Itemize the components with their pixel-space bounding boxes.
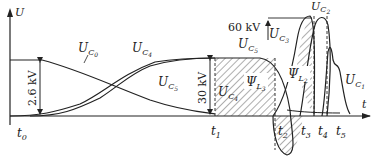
- uc0-curve: [10, 60, 215, 114]
- label-uc5-top: UC5: [238, 37, 258, 54]
- label-psi-l2: ΨL2: [286, 66, 310, 84]
- svg-text:UC5: UC5: [238, 37, 258, 54]
- t0-label: t0: [17, 126, 27, 142]
- svg-text:UC4: UC4: [132, 41, 152, 58]
- y-axis-label: U: [15, 6, 25, 19]
- svg-text:UC1: UC1: [345, 73, 365, 90]
- x-axis: [10, 113, 371, 119]
- svg-text:UC3: UC3: [269, 27, 289, 44]
- svg-text:UC2: UC2: [311, 0, 330, 15]
- t3-label: t3: [301, 124, 311, 140]
- t1-label: t1: [211, 124, 221, 140]
- label-uc1: UC1: [345, 73, 365, 90]
- waveform-diagram: U t 2.6 kV 30 kV 60 kV UC0 UC4 UC5: [0, 0, 373, 160]
- t4-label: t4: [318, 124, 328, 140]
- t5-label: t5: [336, 124, 346, 140]
- voltage-label-60kv: 60 kV: [228, 21, 261, 34]
- svg-text:UC5: UC5: [158, 75, 178, 92]
- voltage-label-2-6kv: 2.6 kV: [26, 69, 39, 106]
- y-axis: [7, 8, 13, 125]
- uc5-curve: [30, 58, 215, 116]
- label-uc4-top: UC4: [132, 41, 152, 58]
- voltage-label-30kv: 30 kV: [196, 71, 209, 104]
- label-uc5-mid: UC5: [158, 75, 178, 92]
- x-axis-label: t: [362, 98, 367, 111]
- label-uc3: UC3: [269, 27, 289, 44]
- label-uc2: UC2: [311, 0, 330, 15]
- label-uc0: UC0: [78, 41, 98, 63]
